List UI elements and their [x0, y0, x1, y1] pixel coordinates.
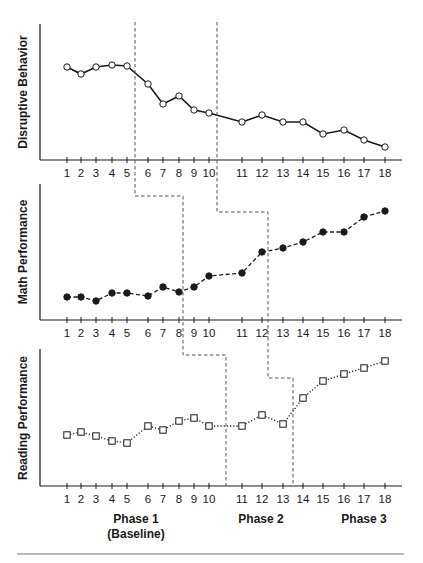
x-tick-label: 9 — [191, 493, 197, 505]
phase1-sublabel: (Baseline) — [107, 527, 164, 541]
x-tick-label: 15 — [317, 167, 330, 179]
data-point — [259, 112, 265, 118]
phase3-label: Phase 3 — [341, 512, 387, 526]
panel3-ylabel: Reading Performance — [16, 356, 30, 480]
x-tick-label: 6 — [145, 493, 151, 505]
data-point — [300, 239, 306, 245]
panel-3: 123456789101112131415161718 — [40, 349, 402, 505]
data-point — [109, 438, 115, 444]
data-point — [341, 229, 347, 235]
data-point — [145, 293, 151, 299]
data-point — [206, 273, 212, 279]
data-point — [191, 284, 197, 290]
phase-line-1-to-2 — [135, 22, 226, 486]
x-tick-label: 10 — [203, 167, 216, 179]
data-point — [361, 137, 367, 143]
x-tick-label: 16 — [338, 167, 351, 179]
data-point — [124, 63, 130, 69]
x-tick-label: 2 — [78, 493, 84, 505]
x-tick-label: 4 — [109, 327, 116, 339]
x-tick-label: 11 — [236, 167, 248, 179]
x-tick-label: 17 — [358, 493, 371, 505]
x-tick-label: 14 — [297, 493, 310, 505]
phase2-label: Phase 2 — [238, 512, 284, 526]
data-point — [176, 93, 182, 99]
data-point — [78, 429, 84, 435]
panel-2: 123456789101112131415161718 — [40, 184, 402, 339]
x-tick-label: 7 — [160, 167, 166, 179]
data-point — [239, 423, 245, 429]
data-point — [78, 294, 84, 300]
x-tick-label: 2 — [78, 327, 84, 339]
x-tick-label: 18 — [379, 167, 392, 179]
x-tick-label: 17 — [358, 167, 371, 179]
data-point — [206, 423, 212, 429]
data-point — [382, 358, 388, 364]
x-tick-label: 16 — [338, 327, 351, 339]
x-tick-label: 1 — [64, 167, 70, 179]
data-point — [64, 64, 70, 70]
panel1-ylabel: Disruptive Behavior — [16, 35, 30, 149]
data-point — [176, 289, 182, 295]
data-point — [239, 270, 245, 276]
data-point — [259, 412, 265, 418]
x-tick-label: 15 — [317, 493, 330, 505]
data-point — [64, 432, 70, 438]
data-point — [206, 110, 212, 116]
x-tick-label: 13 — [277, 167, 290, 179]
x-tick-label: 6 — [145, 167, 151, 179]
x-tick-label: 10 — [203, 327, 216, 339]
x-tick-label: 8 — [176, 167, 182, 179]
x-tick-label: 3 — [93, 167, 99, 179]
data-point — [145, 81, 151, 87]
x-tick-label: 5 — [124, 327, 130, 339]
data-point — [109, 290, 115, 296]
x-tick-label: 8 — [176, 493, 182, 505]
data-point — [124, 290, 130, 296]
data-point — [124, 440, 130, 446]
phase1-label: Phase 1 — [113, 512, 159, 526]
data-point — [341, 127, 347, 133]
x-tick-label: 5 — [124, 493, 130, 505]
data-point — [93, 433, 99, 439]
x-tick-label: 12 — [256, 167, 269, 179]
phase-change-lines — [135, 22, 293, 486]
data-point — [320, 378, 326, 384]
x-tick-label: 12 — [256, 327, 269, 339]
x-tick-label: 9 — [191, 327, 197, 339]
x-tick-label: 6 — [145, 327, 151, 339]
x-tick-label: 3 — [93, 327, 99, 339]
x-tick-label: 13 — [277, 327, 290, 339]
x-tick-label: 14 — [297, 167, 310, 179]
x-tick-label: 11 — [236, 327, 248, 339]
x-tick-label: 1 — [64, 493, 70, 505]
panel2-ylabel: Math Performance — [16, 199, 30, 304]
data-point — [191, 415, 197, 421]
x-tick-label: 9 — [191, 167, 197, 179]
data-point — [78, 71, 84, 77]
x-tick-label: 8 — [176, 327, 182, 339]
x-tick-label: 7 — [160, 327, 166, 339]
multiple-baseline-chart: Disruptive Behavior Math Performance Rea… — [0, 0, 423, 563]
x-tick-label: 17 — [358, 327, 371, 339]
series-line — [67, 65, 385, 147]
x-tick-label: 15 — [317, 327, 330, 339]
data-point — [145, 423, 151, 429]
x-tick-label: 4 — [109, 493, 116, 505]
phase-line-2-to-3 — [217, 22, 293, 486]
panel-1: 123456789101112131415161718 — [40, 24, 402, 179]
x-tick-label: 18 — [379, 493, 392, 505]
data-point — [160, 101, 166, 107]
data-point — [361, 214, 367, 220]
data-point — [382, 144, 388, 150]
x-tick-label: 7 — [160, 493, 166, 505]
data-point — [280, 421, 286, 427]
data-point — [320, 131, 326, 137]
data-point — [109, 62, 115, 68]
x-tick-label: 16 — [338, 493, 351, 505]
data-point — [176, 418, 182, 424]
data-point — [93, 298, 99, 304]
data-point — [300, 395, 306, 401]
data-point — [341, 371, 347, 377]
x-tick-label: 3 — [93, 493, 99, 505]
